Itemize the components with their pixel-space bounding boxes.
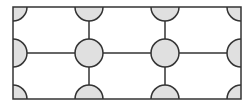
lattice-circle [75,0,103,21]
lattice-circle [75,85,103,107]
lattice-circle [151,85,179,107]
lattice-circle [75,39,103,67]
lattice-circle [151,0,179,21]
lattice-circle [227,39,250,67]
lattice-circle [227,85,250,107]
lattice-circle [151,39,179,67]
lattice-circle [227,0,250,21]
connector-lines [13,7,241,99]
circle-lattice-diagram [0,0,250,107]
